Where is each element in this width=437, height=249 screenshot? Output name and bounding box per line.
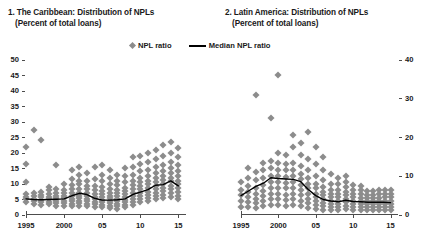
panel-caribbean-title-line1: 1. The Caribbean: Distribution of NPLs [8, 8, 154, 19]
legend-item-npl-ratio: NPL ratio [130, 41, 172, 50]
y-tick-label-caribbean: 10 [2, 180, 19, 188]
x-tick-latin-america [391, 215, 392, 218]
x-tick-latin-america [241, 215, 242, 218]
x-tick-latin-america [316, 215, 317, 218]
y-tick-caribbean [22, 168, 25, 169]
y-tick-label-latin-america: 40 [405, 56, 413, 64]
y-tick-label-caribbean: 15 [2, 165, 19, 173]
x-tick-label-caribbean: 10 [136, 222, 144, 230]
y-tick-label-caribbean: 40 [2, 87, 19, 95]
y-tick-caribbean [22, 137, 25, 138]
x-tick-label-latin-america: 05 [312, 222, 320, 230]
y-tick-latin-america [399, 215, 402, 216]
panel-caribbean-subtitle: (Percent of total loans) [8, 19, 154, 30]
y-tick-label-caribbean: 35 [2, 103, 19, 111]
y-tick-label-caribbean: 45 [2, 72, 19, 80]
plot-area-latin-america: 01020304019952000051015 [241, 60, 398, 215]
x-tick-caribbean [140, 215, 141, 218]
panel-latin-america-title: 2. Latin America: Distribution of NPLs (… [225, 8, 368, 29]
y-tick-label-latin-america: 30 [405, 95, 413, 103]
median-line-latin-america [241, 60, 398, 215]
legend-label-npl-ratio: NPL ratio [138, 41, 172, 50]
panel-caribbean: 1. The Caribbean: Distribution of NPLs (… [0, 0, 218, 249]
y-tick-caribbean [22, 153, 25, 154]
diamond-marker-icon [129, 42, 136, 49]
x-tick-caribbean [26, 215, 27, 218]
y-tick-label-caribbean: 50 [2, 56, 19, 64]
x-tick-label-caribbean: 2000 [56, 222, 73, 230]
line-marker-icon [189, 45, 206, 47]
panel-latin-america-title-line1: 2. Latin America: Distribution of NPLs [225, 8, 368, 19]
npl-distribution-figure: 1. The Caribbean: Distribution of NPLs (… [0, 0, 437, 249]
y-tick-label-latin-america: 20 [405, 134, 413, 142]
y-tick-caribbean [22, 60, 25, 61]
y-tick-caribbean [22, 75, 25, 76]
x-tick-label-latin-america: 10 [349, 222, 357, 230]
y-tick-latin-america [399, 176, 402, 177]
x-tick-label-caribbean: 1995 [18, 222, 35, 230]
y-tick-caribbean [22, 215, 25, 216]
x-tick-label-latin-america: 15 [386, 222, 394, 230]
y-tick-label-caribbean: 20 [2, 149, 19, 157]
y-tick-caribbean [22, 122, 25, 123]
panel-caribbean-title: 1. The Caribbean: Distribution of NPLs (… [8, 8, 154, 29]
y-tick-label-caribbean: 0 [2, 211, 19, 219]
x-tick-latin-america [353, 215, 354, 218]
x-tick-caribbean [178, 215, 179, 218]
x-tick-label-latin-america: 2000 [270, 222, 287, 230]
x-tick-caribbean [102, 215, 103, 218]
y-tick-label-latin-america: 10 [405, 172, 413, 180]
x-tick-label-caribbean: 15 [174, 222, 182, 230]
y-tick-caribbean [22, 91, 25, 92]
panel-latin-america-subtitle: (Percent of total loans) [225, 19, 368, 30]
x-tick-caribbean [64, 215, 65, 218]
median-line-caribbean [26, 60, 186, 215]
y-tick-latin-america [399, 137, 402, 138]
y-tick-label-latin-america: 0 [405, 211, 409, 219]
x-tick-latin-america [278, 215, 279, 218]
y-tick-caribbean [22, 106, 25, 107]
x-tick-label-caribbean: 05 [98, 222, 106, 230]
y-tick-latin-america [399, 98, 402, 99]
plot-area-caribbean: 0510152025303540455019952000051015 [26, 60, 186, 215]
y-tick-label-caribbean: 30 [2, 118, 19, 126]
y-tick-latin-america [399, 60, 402, 61]
y-tick-label-caribbean: 25 [2, 134, 19, 142]
x-tick-label-latin-america: 1995 [233, 222, 250, 230]
y-tick-label-caribbean: 5 [2, 196, 19, 204]
